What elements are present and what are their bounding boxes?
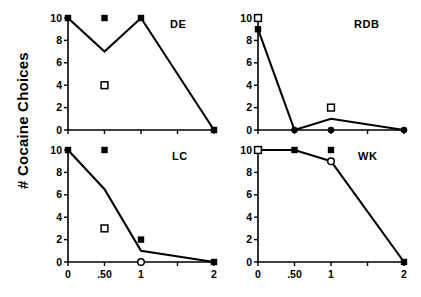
marker-open-square — [328, 104, 335, 111]
marker-filled-circle — [401, 127, 408, 134]
marker-filled-square — [138, 236, 144, 242]
marker-filled-circle — [328, 127, 335, 134]
marker-open-square — [255, 147, 262, 154]
panel-wk: 02468100.5012 WK — [232, 140, 410, 292]
y-tick-label: 0 — [56, 256, 62, 268]
y-tick-label: 2 — [246, 233, 252, 245]
cocaine-choices-figure: # Cocaine Choices 0246810 DE 0246810 RDB… — [0, 0, 421, 297]
marker-filled-square — [65, 15, 71, 21]
marker-open-circle — [138, 259, 145, 266]
axis-lines — [68, 150, 214, 262]
axis-lines — [68, 18, 214, 130]
panel-de: 0246810 DE — [42, 8, 220, 144]
panel-lc-label: LC — [172, 150, 188, 162]
x-tick-label: .50 — [97, 268, 112, 280]
x-tick-label: 1 — [328, 268, 334, 280]
y-tick-label: 2 — [56, 101, 62, 113]
y-tick-label: 6 — [56, 188, 62, 200]
marker-filled-square — [255, 26, 261, 32]
marker-open-circle — [328, 158, 335, 165]
y-tick-label: 4 — [56, 211, 62, 223]
marker-open-square — [101, 225, 108, 232]
axis-lines — [258, 150, 404, 262]
marker-filled-square — [401, 259, 407, 265]
marker-open-square — [101, 82, 108, 89]
marker-filled-square — [211, 127, 217, 133]
y-tick-label: 10 — [240, 12, 252, 24]
panel-lc: 02468100.5012 LC — [42, 140, 220, 292]
x-tick-label: 2 — [211, 268, 217, 280]
panel-de-plot: 0246810 — [42, 8, 220, 144]
y-tick-label: 2 — [246, 101, 252, 113]
x-tick-label: 1 — [138, 268, 144, 280]
y-tick-label: 8 — [56, 34, 62, 46]
marker-filled-square — [101, 15, 107, 21]
x-tick-label: .50 — [287, 268, 302, 280]
data-line — [68, 18, 214, 130]
y-tick-label: 6 — [246, 188, 252, 200]
data-line — [258, 29, 404, 130]
marker-open-square — [255, 15, 262, 22]
y-tick-label: 0 — [56, 124, 62, 136]
data-line — [68, 150, 214, 262]
y-tick-label: 4 — [56, 79, 62, 91]
y-tick-label: 0 — [246, 256, 252, 268]
y-tick-label: 2 — [56, 233, 62, 245]
y-tick-label: 4 — [246, 79, 252, 91]
marker-filled-square — [101, 147, 107, 153]
marker-filled-square — [211, 259, 217, 265]
y-tick-label: 8 — [246, 166, 252, 178]
panel-rdb: 0246810 RDB — [232, 8, 410, 144]
panel-rdb-plot: 0246810 — [232, 8, 410, 144]
marker-filled-square — [291, 147, 297, 153]
y-axis-label: # Cocaine Choices — [14, 11, 31, 231]
y-tick-label: 4 — [246, 211, 252, 223]
x-tick-label: 0 — [255, 268, 261, 280]
marker-filled-square — [328, 147, 334, 153]
panel-wk-plot: 02468100.5012 — [232, 140, 410, 292]
x-tick-label: 0 — [65, 268, 71, 280]
marker-filled-circle — [291, 127, 298, 134]
x-tick-label: 2 — [401, 268, 407, 280]
marker-filled-square — [65, 147, 71, 153]
y-tick-label: 0 — [246, 124, 252, 136]
panel-wk-label: WK — [358, 150, 378, 162]
y-tick-label: 6 — [56, 56, 62, 68]
y-tick-label: 8 — [56, 166, 62, 178]
y-tick-label: 8 — [246, 34, 252, 46]
y-tick-label: 6 — [246, 56, 252, 68]
y-tick-label: 10 — [50, 144, 62, 156]
panel-rdb-label: RDB — [354, 18, 380, 30]
data-line — [258, 150, 404, 262]
panel-de-label: DE — [170, 18, 186, 30]
axis-lines — [258, 18, 404, 130]
marker-filled-square — [138, 15, 144, 21]
y-tick-label: 10 — [240, 144, 252, 156]
y-tick-label: 10 — [50, 12, 62, 24]
panel-lc-plot: 02468100.5012 — [42, 140, 220, 292]
